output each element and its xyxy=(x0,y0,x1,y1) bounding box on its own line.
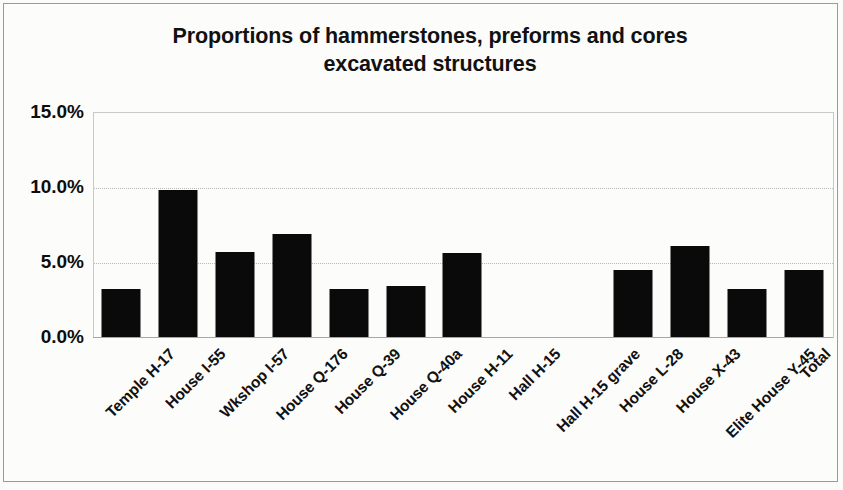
x-axis-tick-label: Total xyxy=(796,345,834,383)
chart-title-line-2: excavated structures xyxy=(60,50,800,78)
bar-slot xyxy=(491,112,548,337)
y-axis: 0.0%5.0%10.0%15.0% xyxy=(0,0,84,490)
bar-slot xyxy=(718,112,775,337)
bar-slot xyxy=(150,112,207,337)
bar-slot xyxy=(434,112,491,337)
x-axis-label-slot: House X-43 xyxy=(661,337,718,487)
bar[interactable] xyxy=(386,286,425,337)
x-axis-label-slot: House L-28 xyxy=(605,337,662,487)
bar[interactable] xyxy=(614,270,653,338)
bar-slot xyxy=(93,112,150,337)
bar[interactable] xyxy=(159,190,198,337)
x-axis-label-slot: Elite House Y-45 xyxy=(718,337,775,487)
chart-title: Proportions of hammerstones, preforms an… xyxy=(60,22,800,79)
bar-slot xyxy=(661,112,718,337)
bar-slot xyxy=(377,112,434,337)
chart-title-line-1: Proportions of hammerstones, preforms an… xyxy=(60,22,800,50)
bar-slot xyxy=(605,112,662,337)
bar[interactable] xyxy=(443,253,482,337)
bar[interactable] xyxy=(216,252,255,338)
x-axis-labels: Temple H-17House I-55Wkshop I-57House Q-… xyxy=(93,337,832,487)
x-axis-label-slot: House Q-39 xyxy=(320,337,377,487)
x-axis-label-slot: House Q-176 xyxy=(264,337,321,487)
y-axis-tick-label: 0.0% xyxy=(0,326,84,348)
bar-slot xyxy=(207,112,264,337)
x-axis-label-slot: House Q-40a xyxy=(377,337,434,487)
bar[interactable] xyxy=(784,270,823,338)
bar[interactable] xyxy=(102,289,141,337)
x-axis-label-slot: Temple H-17 xyxy=(93,337,150,487)
x-axis-label-slot: House H-11 xyxy=(434,337,491,487)
bar-slot xyxy=(264,112,321,337)
x-axis-label-slot: Hall H-15 xyxy=(491,337,548,487)
x-axis-label-slot: Wkshop I-57 xyxy=(207,337,264,487)
x-axis-label-slot: Hall H-15 grave xyxy=(548,337,605,487)
y-axis-tick-label: 15.0% xyxy=(0,101,84,123)
bar[interactable] xyxy=(670,246,709,338)
y-axis-tick-label: 5.0% xyxy=(0,251,84,273)
bar[interactable] xyxy=(727,289,766,337)
x-axis-label-slot: House I-55 xyxy=(150,337,207,487)
y-axis-tick-label: 10.0% xyxy=(0,176,84,198)
chart-screenshot: Proportions of hammerstones, preforms an… xyxy=(0,0,843,490)
bar-series xyxy=(93,112,832,337)
bar[interactable] xyxy=(329,289,368,337)
bar-slot xyxy=(548,112,605,337)
bar-slot xyxy=(320,112,377,337)
bar-slot xyxy=(775,112,832,337)
x-axis-label-slot: Total xyxy=(775,337,832,487)
bar[interactable] xyxy=(272,234,311,338)
